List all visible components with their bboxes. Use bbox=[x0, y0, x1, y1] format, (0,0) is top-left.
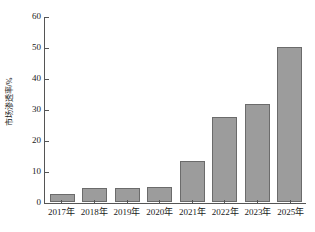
x-axis-label: 2022年 bbox=[209, 206, 242, 218]
plot-area: 0102030405060 bbox=[44, 17, 306, 204]
y-axis-tick-label: 40 bbox=[32, 73, 41, 84]
y-axis-tick-label: 0 bbox=[37, 197, 42, 208]
y-axis-title-label: 市场渗透率/% bbox=[6, 78, 14, 127]
bar-chart: 市场渗透率/% 0102030405060 2017年2018年2019年202… bbox=[0, 0, 315, 232]
y-axis-tick-label: 10 bbox=[32, 166, 41, 177]
bar[interactable] bbox=[277, 47, 302, 202]
bar-slot bbox=[46, 17, 79, 202]
bar-slot bbox=[144, 17, 177, 202]
x-axis-tick-mark bbox=[257, 200, 258, 204]
x-axis-labels: 2017年2018年2019年2020年2021年2022年2023年2025年 bbox=[45, 206, 307, 218]
y-axis-title: 市场渗透率/% bbox=[2, 0, 18, 204]
y-axis-tick-label: 30 bbox=[32, 104, 41, 115]
bar[interactable] bbox=[245, 104, 270, 202]
bar-slot bbox=[241, 17, 274, 202]
y-axis-tick-label: 60 bbox=[32, 11, 41, 22]
y-axis-tick-label: 20 bbox=[32, 135, 41, 146]
bar[interactable] bbox=[212, 117, 237, 202]
bar-slot bbox=[79, 17, 112, 202]
x-axis-tick-mark bbox=[159, 200, 160, 204]
x-axis-label: 2019年 bbox=[111, 206, 144, 218]
bar-slot bbox=[176, 17, 209, 202]
y-axis-tick-mark bbox=[45, 203, 49, 204]
y-axis-tick-label: 50 bbox=[32, 42, 41, 53]
x-axis-tick-mark bbox=[61, 200, 62, 204]
x-axis-label: 2023年 bbox=[242, 206, 275, 218]
bar[interactable] bbox=[180, 161, 205, 202]
x-axis-label: 2017年 bbox=[45, 206, 78, 218]
x-axis-label: 2020年 bbox=[143, 206, 176, 218]
x-axis-label: 2025年 bbox=[274, 206, 307, 218]
x-axis-label: 2018年 bbox=[78, 206, 111, 218]
x-axis-label: 2021年 bbox=[176, 206, 209, 218]
bars-layer bbox=[46, 17, 306, 202]
bar-slot bbox=[111, 17, 144, 202]
x-axis-tick-mark bbox=[94, 200, 95, 204]
x-axis-tick-mark bbox=[290, 200, 291, 204]
bar-slot bbox=[274, 17, 307, 202]
x-axis-tick-mark bbox=[224, 200, 225, 204]
x-axis-tick-mark bbox=[127, 200, 128, 204]
x-axis-tick-mark bbox=[192, 200, 193, 204]
bar-slot bbox=[209, 17, 242, 202]
